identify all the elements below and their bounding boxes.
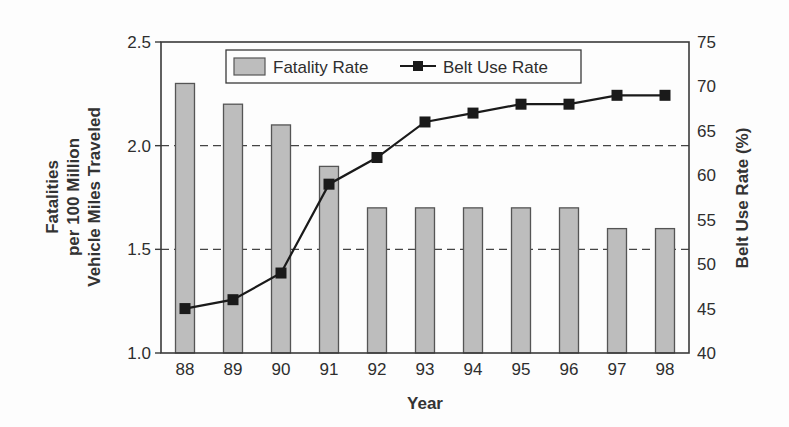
belt-use-marker-square-icon <box>564 99 575 110</box>
x-tick-label: 89 <box>224 360 243 379</box>
belt-use-marker-square-icon <box>516 99 527 110</box>
right-y-tick-label: 70 <box>697 77 716 96</box>
left-y-axis-title: Fatalities per 100 Million Vehicle Miles… <box>43 107 104 287</box>
bar-fatality-rate <box>656 229 675 353</box>
right-y-tick-label: 60 <box>697 166 716 185</box>
left-y-axis-title-line-3: Vehicle Miles Traveled <box>85 107 104 287</box>
belt-use-marker-square-icon <box>276 268 287 279</box>
x-tick-label: 94 <box>464 360 483 379</box>
belt-use-marker-square-icon <box>468 108 479 119</box>
left-y-axis-title-line-1: Fatalities <box>43 160 62 234</box>
belt-use-marker-square-icon <box>612 90 623 101</box>
bar-fatality-rate <box>512 208 531 353</box>
legend-marker-square-icon <box>413 61 423 71</box>
right-y-tick-label: 75 <box>697 33 716 52</box>
left-y-axis-title-line-2: per 100 Million <box>64 138 83 256</box>
bar-fatality-rate <box>464 208 483 353</box>
belt-use-marker-square-icon <box>372 152 383 163</box>
chart-figure: 1.01.52.02.5 4045505560657075 8889909192… <box>0 0 789 427</box>
right-y-axis-title: Belt Use Rate (%) <box>733 128 752 269</box>
legend-label-belt-use-rate: Belt Use Rate <box>443 58 548 77</box>
x-axis: 8889909192939495969798 <box>176 360 675 379</box>
belt-use-marker-square-icon <box>180 303 191 314</box>
belt-use-marker-square-icon <box>324 179 335 190</box>
belt-use-marker-square-icon <box>420 116 431 127</box>
right-y-tick-label: 50 <box>697 255 716 274</box>
legend-swatch-fatality-rate <box>234 58 265 75</box>
bar-fatality-rate <box>560 208 579 353</box>
left-y-tick-label: 1.5 <box>127 240 151 259</box>
bar-fatality-rate <box>608 229 627 353</box>
legend-label-fatality-rate: Fatality Rate <box>273 58 368 77</box>
x-tick-label: 92 <box>368 360 387 379</box>
x-tick-label: 90 <box>272 360 291 379</box>
left-y-tick-label: 2.5 <box>127 33 151 52</box>
left-y-tick-label: 2.0 <box>127 137 151 156</box>
left-y-tick-label: 1.0 <box>127 344 151 363</box>
right-y-axis: 4045505560657075 <box>697 33 716 363</box>
right-y-tick-label: 45 <box>697 300 716 319</box>
x-tick-label: 91 <box>320 360 339 379</box>
legend: Fatality Rate Belt Use Rate <box>226 50 581 83</box>
right-y-tick-label: 55 <box>697 211 716 230</box>
x-tick-label: 93 <box>416 360 435 379</box>
x-tick-label: 88 <box>176 360 195 379</box>
right-y-tick-label: 65 <box>697 122 716 141</box>
bar-fatality-rate <box>368 208 387 353</box>
belt-use-marker-square-icon <box>660 90 671 101</box>
left-y-axis: 1.01.52.02.5 <box>127 33 161 363</box>
x-tick-label: 96 <box>560 360 579 379</box>
right-y-axis-title-text: Belt Use Rate (%) <box>733 128 752 269</box>
x-axis-title: Year <box>407 394 443 413</box>
x-tick-label: 97 <box>608 360 627 379</box>
belt-use-marker-square-icon <box>228 294 239 305</box>
bar-fatality-rate <box>416 208 435 353</box>
bar-fatality-rate <box>272 125 291 353</box>
bar-fatality-rate <box>224 104 243 353</box>
x-tick-label: 98 <box>656 360 675 379</box>
x-tick-label: 95 <box>512 360 531 379</box>
right-y-tick-label: 40 <box>697 344 716 363</box>
